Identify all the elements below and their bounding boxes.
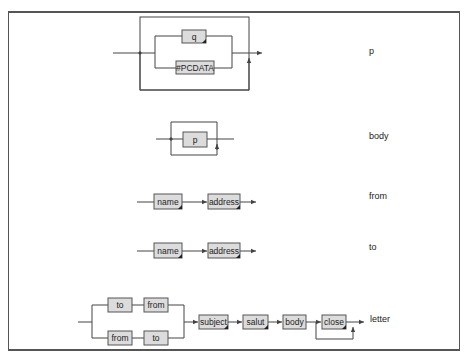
node-letter-to-1: to — [108, 298, 132, 312]
node-from-address: address — [208, 194, 240, 209]
node-letter-from-1: from — [144, 298, 168, 312]
svg-text:from: from — [112, 333, 129, 343]
svg-text:to: to — [152, 333, 159, 343]
syntax-diagrams: q #PCDATA p name address name addr — [0, 0, 469, 359]
svg-text:name: name — [157, 197, 179, 207]
node-letter-from-2: from — [108, 331, 132, 345]
rule-label-body: body — [369, 131, 389, 141]
svg-text:subject: subject — [200, 317, 228, 327]
svg-text:address: address — [209, 246, 239, 256]
svg-text:close: close — [324, 317, 344, 327]
node-boxes: q #PCDATA p name address name addr — [108, 30, 346, 345]
node-to-name: name — [154, 243, 182, 258]
node-q: q — [182, 30, 206, 43]
node-letter-close: close — [322, 315, 346, 329]
svg-text:to: to — [116, 300, 123, 310]
diagram-p — [113, 17, 262, 90]
rule-label-letter: letter — [370, 314, 390, 324]
svg-text:salut: salut — [247, 317, 266, 327]
node-letter-body: body — [283, 315, 306, 329]
svg-text:name: name — [157, 246, 179, 256]
svg-text:from: from — [148, 300, 165, 310]
rule-label-to: to — [369, 242, 377, 252]
node-to-address: address — [208, 243, 240, 258]
svg-text:q: q — [192, 32, 197, 42]
node-letter-salut: salut — [243, 315, 268, 329]
node-letter-subject: subject — [199, 315, 228, 329]
rule-label-p: p — [369, 46, 374, 56]
svg-text:#PCDATA: #PCDATA — [176, 63, 214, 73]
node-from-name: name — [154, 194, 182, 209]
node-pcdata: #PCDATA — [176, 61, 214, 74]
svg-text:body: body — [285, 317, 304, 327]
svg-text:p: p — [193, 135, 198, 145]
node-body-p: p — [183, 132, 207, 147]
node-letter-to-2: to — [144, 331, 168, 345]
svg-text:address: address — [209, 197, 239, 207]
rule-label-from: from — [369, 191, 387, 201]
